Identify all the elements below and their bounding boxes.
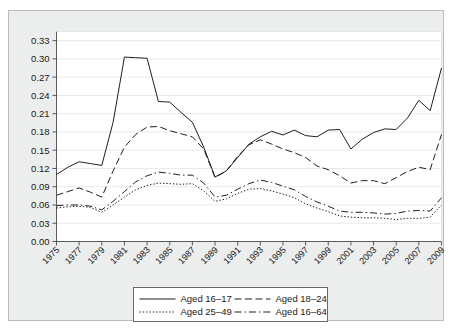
legend-label-2: Aged 18–24	[276, 293, 327, 304]
x-tick-label: 1991	[221, 245, 242, 266]
x-tick-label: 1999	[312, 245, 333, 266]
y-tick-label: 0.24	[31, 90, 50, 101]
y-axis-tick-labels: 0.000.030.060.090.120.150.180.210.240.27…	[31, 35, 57, 247]
x-axis-tick-labels: 1975197719791981198319851987198919911993…	[40, 242, 446, 267]
plot-area	[57, 32, 442, 242]
legend-label-4: Aged 16–64	[276, 306, 327, 317]
x-tick-label: 2009	[425, 245, 446, 266]
y-tick-label: 0.18	[31, 126, 50, 137]
y-tick-label: 0.30	[31, 53, 50, 64]
y-tick-label: 0.33	[31, 35, 50, 46]
x-tick-label: 1995	[267, 245, 288, 266]
x-tick-label: 2007	[403, 245, 424, 266]
y-tick-label: 0.06	[31, 199, 50, 210]
x-tick-label: 1987	[176, 245, 197, 266]
y-tick-label: 0.21	[31, 108, 50, 119]
x-tick-label: 2001	[335, 245, 356, 266]
line-chart: 0.000.030.060.090.120.150.180.210.240.27…	[0, 0, 458, 335]
legend-label-1: Aged 16–17	[181, 293, 232, 304]
x-tick-label: 1997	[289, 245, 310, 266]
y-tick-label: 0.12	[31, 163, 50, 174]
x-tick-label: 1975	[40, 245, 61, 266]
chart-legend: Aged 16–17Aged 18–24Aged 25–49Aged 16–64	[134, 288, 328, 322]
x-tick-label: 1993	[244, 245, 265, 266]
x-tick-label: 2005	[380, 245, 401, 266]
y-tick-label: 0.00	[31, 236, 50, 247]
legend-label-3: Aged 25–49	[181, 306, 232, 317]
y-tick-label: 0.03	[31, 218, 50, 229]
y-tick-label: 0.15	[31, 145, 50, 156]
x-tick-label: 1983	[131, 245, 152, 266]
plot-background	[57, 32, 442, 242]
x-tick-label: 1981	[108, 245, 129, 266]
x-tick-label: 1985	[153, 245, 174, 266]
y-tick-label: 0.09	[31, 181, 50, 192]
x-tick-label: 1979	[85, 245, 106, 266]
y-tick-label: 0.27	[31, 72, 50, 83]
x-tick-label: 2003	[357, 245, 378, 266]
x-tick-label: 1989	[199, 245, 220, 266]
chart-figure: 0.000.030.060.090.120.150.180.210.240.27…	[0, 0, 458, 335]
x-tick-label: 1977	[63, 245, 84, 266]
